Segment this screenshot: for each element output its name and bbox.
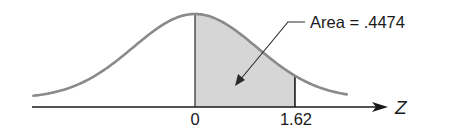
normal-curve bbox=[33, 14, 346, 96]
tick-label-z-value: 1.62 bbox=[280, 110, 312, 128]
area-annotation: Area = .4474 bbox=[310, 13, 405, 31]
tick-label-zero: 0 bbox=[190, 110, 199, 128]
z-axis-label: Z bbox=[394, 97, 408, 118]
shaded-area-region bbox=[195, 14, 295, 107]
normal-distribution-figure: Area = .4474 0 1.62 Z bbox=[0, 0, 451, 128]
